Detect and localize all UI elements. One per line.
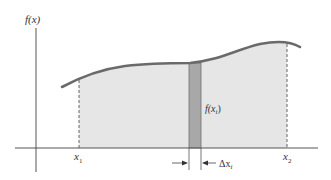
x2-label: x2 xyxy=(282,150,292,165)
strip-rectangle xyxy=(189,63,201,148)
shaded-area xyxy=(79,42,287,148)
area-under-curve-diagram: f(x) x1 x2 f(xi) Δxi xyxy=(0,0,331,180)
right-pointing-arrowhead-icon xyxy=(182,161,188,166)
x1-label: x1 xyxy=(73,150,83,165)
y-axis-label: f(x) xyxy=(25,13,41,26)
strip-width-label: Δxi xyxy=(219,158,232,171)
left-pointing-arrowhead-icon xyxy=(202,161,208,166)
